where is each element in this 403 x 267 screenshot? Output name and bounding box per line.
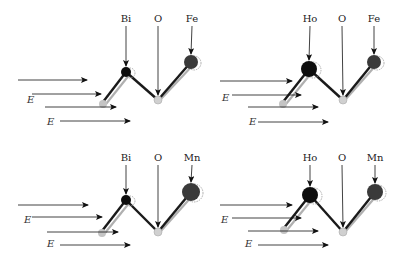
atom-label-a: Ho bbox=[303, 13, 318, 24]
field-label-e: E bbox=[220, 214, 229, 225]
atom-label-a: Bi bbox=[121, 152, 132, 163]
field-label-e: E bbox=[248, 116, 257, 127]
panel-bi-mn: BiOMnEE bbox=[18, 152, 203, 249]
field-label-e: E bbox=[23, 214, 32, 225]
bond bbox=[126, 200, 158, 232]
a-site-atom-bi bbox=[121, 195, 131, 205]
a-site-atom-ho bbox=[302, 187, 318, 203]
bond bbox=[103, 72, 126, 102]
atom-label-o: O bbox=[154, 13, 162, 24]
atom-label-o: O bbox=[154, 152, 162, 163]
panel-ho-mn: HoOMnEE bbox=[220, 152, 386, 249]
bond bbox=[102, 200, 126, 231]
ghost-atom bbox=[280, 226, 288, 234]
a-site-atom-bi bbox=[121, 67, 131, 77]
field-label-e: E bbox=[221, 92, 230, 103]
bond bbox=[126, 72, 158, 100]
oxygen-atom bbox=[154, 228, 162, 236]
ghost-bond bbox=[106, 74, 130, 104]
pointer-arrow bbox=[342, 26, 343, 95]
field-label-e: E bbox=[46, 116, 55, 127]
pointer-arrow bbox=[309, 26, 310, 60]
b-site-atom-mn bbox=[182, 183, 200, 201]
a-site-atom-ho bbox=[301, 61, 317, 77]
pointer-arrow bbox=[342, 165, 343, 227]
atom-label-b: Mn bbox=[367, 152, 384, 163]
ghost-bond bbox=[105, 202, 130, 233]
panel-ho-fe: HoOFeEE bbox=[220, 13, 384, 127]
atom-label-o: O bbox=[338, 152, 346, 163]
bond bbox=[343, 62, 374, 100]
atom-label-o: O bbox=[338, 13, 346, 24]
atom-label-a: Ho bbox=[303, 152, 318, 163]
ghost-atom bbox=[98, 229, 106, 237]
bond bbox=[158, 62, 191, 100]
atom-label-b: Fe bbox=[368, 13, 380, 24]
ghost-bond bbox=[160, 64, 194, 100]
ferroelectric-displacement-diagram: BiOFeEEHoOFeEEBiOMnEEHoOMnEE bbox=[0, 0, 403, 267]
oxygen-atom bbox=[154, 96, 162, 104]
pointer-arrow bbox=[191, 26, 192, 54]
panel-bi-fe: BiOFeEE bbox=[18, 13, 201, 127]
b-site-atom-fe bbox=[184, 55, 198, 69]
oxygen-atom bbox=[339, 96, 347, 104]
b-site-atom-fe bbox=[367, 55, 381, 69]
atom-label-b: Fe bbox=[186, 13, 198, 24]
oxygen-atom bbox=[339, 228, 347, 236]
atom-label-b: Mn bbox=[184, 152, 201, 163]
field-label-e: E bbox=[244, 238, 253, 249]
pointer-arrow bbox=[191, 165, 192, 182]
field-label-e: E bbox=[46, 238, 55, 249]
atom-label-a: Bi bbox=[121, 13, 132, 24]
ghost-bond bbox=[345, 64, 377, 100]
field-label-e: E bbox=[26, 94, 35, 105]
b-site-atom-mn bbox=[367, 184, 383, 200]
